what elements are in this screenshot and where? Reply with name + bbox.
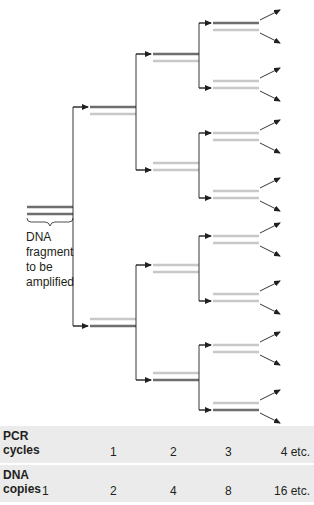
fragment-label-line: DNA — [26, 230, 74, 245]
arrow-down-right-icon — [260, 355, 280, 365]
fragment-label-line: amplified — [26, 275, 74, 290]
branch-connector — [199, 133, 211, 198]
row-label-line1: PCR — [3, 429, 40, 443]
arrow-down-right-icon — [260, 413, 280, 423]
arrow-down-right-icon — [260, 201, 280, 211]
arrow-up-right-icon — [260, 10, 280, 20]
dna-strands — [27, 23, 259, 410]
branch-connector — [73, 107, 88, 326]
arrow-up-right-icon — [260, 332, 280, 342]
copies-value: 8 — [225, 484, 232, 498]
branch-connector — [199, 345, 211, 410]
branch-connector — [136, 54, 151, 170]
arrow-down-right-icon — [260, 304, 280, 314]
branch-connectors — [73, 10, 280, 423]
row-label-line2: copies — [3, 482, 41, 496]
fragment-label: DNA fragment to be amplified — [26, 230, 74, 290]
row-label-line1: DNA — [3, 468, 41, 482]
dna-copies-row: DNA copies 1 2 4 8 16 etc. — [0, 465, 314, 502]
arrow-down-right-icon — [260, 91, 280, 101]
arrow-up-right-icon — [260, 390, 280, 400]
cycle-value: 2 — [170, 445, 177, 459]
arrow-down-right-icon — [260, 33, 280, 43]
cycle-value: 4 etc. — [281, 445, 310, 459]
arrow-up-right-icon — [260, 68, 280, 78]
row-label-line2: cycles — [3, 443, 40, 457]
branch-connector — [199, 236, 211, 301]
branch-connector — [199, 23, 211, 88]
pcr-cycles-row: PCR cycles 1 2 3 4 etc. — [0, 426, 314, 463]
arrow-up-right-icon — [260, 178, 280, 188]
arrow-down-right-icon — [260, 143, 280, 153]
dna-copies-label: DNA copies — [3, 468, 41, 496]
arrow-up-right-icon — [260, 223, 280, 233]
fragment-brace — [27, 218, 73, 226]
arrow-up-right-icon — [260, 120, 280, 130]
cycle-value: 3 — [225, 445, 232, 459]
pcr-diagram — [0, 0, 314, 425]
copies-value: 16 etc. — [274, 484, 310, 498]
copies-value: 2 — [110, 484, 117, 498]
fragment-label-line: fragment — [26, 245, 74, 260]
arrow-down-right-icon — [260, 246, 280, 256]
pcr-cycles-label: PCR cycles — [3, 429, 40, 457]
cycle-value: 1 — [110, 445, 117, 459]
copies-value: 1 — [42, 484, 49, 498]
copies-value: 4 — [170, 484, 177, 498]
branch-connector — [136, 265, 151, 380]
fragment-label-line: to be — [26, 260, 74, 275]
arrow-up-right-icon — [260, 281, 280, 291]
